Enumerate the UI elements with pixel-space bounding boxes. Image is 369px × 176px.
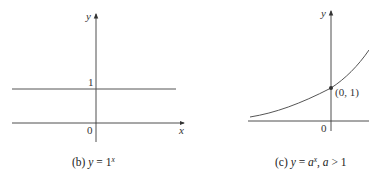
x-axis-label: x: [178, 124, 184, 136]
curve-exponential: [250, 50, 369, 117]
caption-c: (c) y = ax, a > 1: [275, 155, 347, 169]
caption-b: (b) y = 1x: [72, 155, 115, 169]
point-0-1: [329, 86, 333, 90]
point-label: (0, 1): [335, 86, 359, 99]
panel-c: (0, 1) y 0 (c) y = ax, a > 1: [248, 7, 369, 169]
figure: y x 0 1 (b) y = 1x (0, 1) y 0 (c) y = ax…: [0, 0, 369, 176]
panel-b: y x 0 1 (b) y = 1x: [12, 10, 184, 169]
y-axis-label: y: [320, 7, 326, 19]
tick-label-one: 1: [88, 76, 94, 88]
origin-label: 0: [87, 124, 93, 136]
y-axis-label: y: [85, 10, 91, 22]
origin-label: 0: [321, 122, 327, 134]
